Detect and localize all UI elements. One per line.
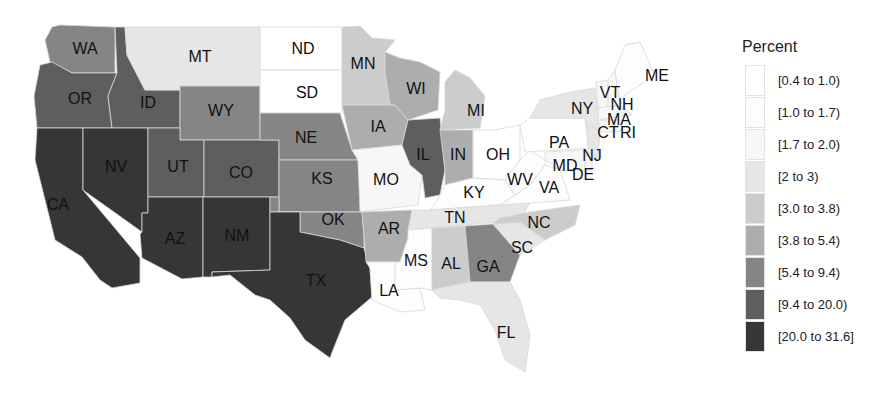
legend-label: [20.0 to 31.6] [778,329,854,344]
label-NC: NC [527,214,550,231]
label-KY: KY [463,184,485,201]
legend-swatch [745,193,765,224]
label-AZ: AZ [165,230,186,247]
label-IN: IN [450,146,466,163]
label-NJ: NJ [582,147,602,164]
label-TX: TX [306,272,327,289]
label-MO: MO [373,171,399,188]
label-NE: NE [295,129,317,146]
label-NY: NY [571,100,594,117]
label-CT: CT [597,124,619,141]
label-MN: MN [351,55,376,72]
legend-title: Percent [742,38,854,56]
legend-item: [2 to 3) [745,160,854,192]
label-AR: AR [378,220,400,237]
label-IL: IL [416,146,429,163]
legend-items: [0.4 to 1.0) [1.0 to 1.7) [1.7 to 2.0) [… [745,64,854,352]
legend-label: [2 to 3) [778,169,818,184]
legend-swatch [745,65,765,96]
label-VA: VA [539,179,559,196]
label-WI: WI [406,80,426,97]
label-SD: SD [296,84,318,101]
legend-label: [0.4 to 1.0) [778,73,840,88]
legend-swatch [745,225,765,256]
label-PA: PA [549,134,569,151]
legend-swatch [745,321,765,352]
label-WY: WY [208,102,234,119]
label-MI: MI [467,102,485,119]
label-MS: MS [404,252,428,269]
legend-label: [3.8 to 5.4) [778,233,840,248]
legend-item: [0.4 to 1.0) [745,64,854,96]
label-CA: CA [47,196,70,213]
label-MT: MT [188,48,211,65]
label-NM: NM [225,227,250,244]
label-LA: LA [379,282,399,299]
state-MI [440,70,485,130]
label-WV: WV [507,171,533,188]
label-NV: NV [105,158,128,175]
legend-item: [1.7 to 2.0) [745,128,854,160]
label-RI: RI [620,124,636,141]
label-KS: KS [311,170,332,187]
legend-label: [9.4 to 20.0) [778,297,847,312]
label-WA: WA [72,40,98,57]
label-DE: DE [572,166,594,183]
legend-item: [5.4 to 9.4) [745,256,854,288]
legend-swatch [745,161,765,192]
legend-label: [5.4 to 9.4) [778,265,840,280]
label-OK: OK [321,211,344,228]
legend-item: [3.0 to 3.8) [745,192,854,224]
legend-item: [9.4 to 20.0) [745,288,854,320]
label-IA: IA [370,118,385,135]
label-UT: UT [167,158,189,175]
label-ND: ND [291,40,314,57]
label-AL: AL [441,255,461,272]
legend-swatch [745,129,765,160]
legend-label: [1.7 to 2.0) [778,137,840,152]
legend-swatch [745,97,765,128]
legend-item: [3.8 to 5.4) [745,224,854,256]
legend-swatch [745,289,765,320]
choropleth-map: WA OR ID MT WY NV UT CO CA AZ NM ND SD N… [0,0,720,395]
legend-label: [1.0 to 1.7) [778,105,840,120]
legend-item: [20.0 to 31.6] [745,320,854,352]
label-OH: OH [486,146,510,163]
label-CO: CO [229,164,253,181]
label-ID: ID [140,94,156,111]
label-ME: ME [645,67,669,84]
label-OR: OR [68,90,92,107]
label-FL: FL [497,324,516,341]
label-GA: GA [476,258,499,275]
legend-label: [3.0 to 3.8) [778,201,840,216]
label-SC: SC [511,239,533,256]
legend: Percent [0.4 to 1.0) [1.0 to 1.7) [1.7 t… [745,38,854,352]
legend-swatch [745,257,765,288]
label-TN: TN [444,209,465,226]
legend-item: [1.0 to 1.7) [745,96,854,128]
